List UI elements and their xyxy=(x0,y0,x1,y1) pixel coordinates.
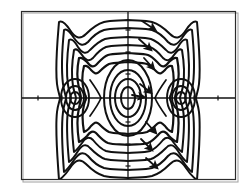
phase-portrait-svg xyxy=(0,0,250,193)
phase-portrait-figure xyxy=(0,0,250,193)
